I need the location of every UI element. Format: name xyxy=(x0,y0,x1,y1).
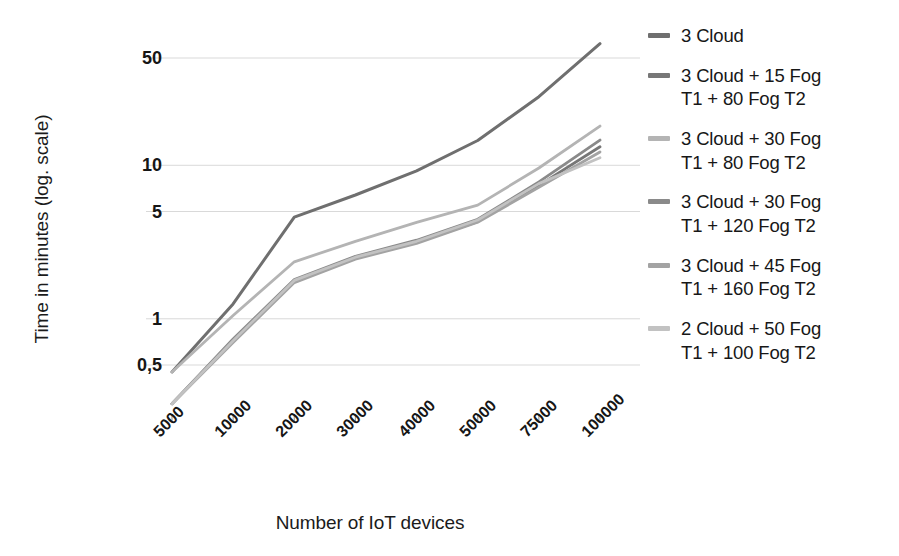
chart-legend: 3 Cloud3 Cloud + 15 Fog T1 + 80 Fog T23 … xyxy=(648,24,898,380)
x-tick-label: 30000 xyxy=(333,397,377,441)
x-tick-label: 5000 xyxy=(150,403,188,441)
legend-item[interactable]: 3 Cloud + 30 Fog T1 + 80 Fog T2 xyxy=(648,127,898,174)
legend-item[interactable]: 2 Cloud + 50 Fog T1 + 100 Fog T2 xyxy=(648,317,898,364)
legend-label: 3 Cloud xyxy=(681,24,744,48)
chart-root: Time in minutes (log. scale) 0,5151050 5… xyxy=(0,0,899,556)
legend-label: 3 Cloud + 15 Fog T1 + 80 Fog T2 xyxy=(681,64,821,111)
x-tick-label: 10000 xyxy=(211,397,255,441)
legend-item[interactable]: 3 Cloud + 15 Fog T1 + 80 Fog T2 xyxy=(648,64,898,111)
legend-label: 3 Cloud + 45 Fog T1 + 160 Fog T2 xyxy=(681,254,821,301)
legend-item[interactable]: 3 Cloud + 30 Fog T1 + 120 Fog T2 xyxy=(648,190,898,237)
legend-item[interactable]: 3 Cloud + 45 Fog T1 + 160 Fog T2 xyxy=(648,254,898,301)
legend-label: 3 Cloud + 30 Fog T1 + 120 Fog T2 xyxy=(681,190,821,237)
x-tick-label: 75000 xyxy=(517,397,561,441)
legend-swatch-icon xyxy=(648,136,670,141)
legend-swatch-icon xyxy=(648,263,670,268)
legend-swatch-icon xyxy=(648,326,670,331)
x-axis-title: Number of IoT devices xyxy=(180,512,560,534)
legend-swatch-icon xyxy=(648,199,670,204)
x-tick-label: 40000 xyxy=(395,397,439,441)
x-axis-ticks: 5000100002000030000400005000075000100000 xyxy=(0,0,640,430)
legend-swatch-icon xyxy=(648,33,670,38)
x-tick-label: 100000 xyxy=(578,390,628,440)
legend-label: 3 Cloud + 30 Fog T1 + 80 Fog T2 xyxy=(681,127,821,174)
legend-item[interactable]: 3 Cloud xyxy=(648,24,898,48)
x-tick-label: 20000 xyxy=(272,397,316,441)
legend-label: 2 Cloud + 50 Fog T1 + 100 Fog T2 xyxy=(681,317,821,364)
x-tick-label: 50000 xyxy=(456,397,500,441)
legend-swatch-icon xyxy=(648,73,670,78)
